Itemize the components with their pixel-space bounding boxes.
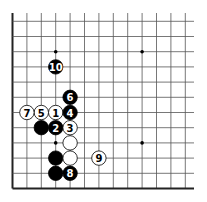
star-point [140, 141, 144, 145]
move-number: 4 [67, 108, 74, 119]
move-number: 3 [67, 123, 74, 134]
move-number: 7 [23, 108, 30, 119]
star-point [54, 141, 58, 145]
stone-circle [49, 166, 63, 180]
go-board: 12345678910 [0, 0, 207, 202]
move-number: 9 [95, 153, 102, 164]
black-stone-move-6: 6 [63, 90, 77, 104]
stone-circle [63, 151, 77, 165]
stone-circle [49, 151, 63, 165]
black-stone [49, 166, 63, 180]
black-stone-move-10: 10 [49, 60, 63, 74]
black-stone-move-2: 2 [49, 121, 63, 135]
move-number: 2 [52, 123, 59, 134]
move-number: 6 [67, 92, 74, 103]
white-stone [63, 136, 77, 150]
white-stone-move-1: 1 [49, 105, 63, 119]
white-stone-move-9: 9 [92, 151, 106, 165]
stone-circle [63, 136, 77, 150]
black-stone [49, 151, 63, 165]
move-number: 10 [49, 62, 63, 73]
white-stone-move-3: 3 [63, 121, 77, 135]
move-number: 8 [67, 168, 74, 179]
black-stone [34, 121, 48, 135]
star-point [54, 50, 58, 54]
move-number: 1 [52, 108, 59, 119]
black-stone-move-4: 4 [63, 105, 77, 119]
move-number: 5 [38, 108, 45, 119]
white-stone-move-7: 7 [20, 105, 34, 119]
white-stone-move-5: 5 [34, 105, 48, 119]
stone-circle [34, 121, 48, 135]
stones-layer: 12345678910 [20, 60, 106, 181]
white-stone [63, 151, 77, 165]
black-stone-move-8: 8 [63, 166, 77, 180]
star-point [140, 50, 144, 54]
